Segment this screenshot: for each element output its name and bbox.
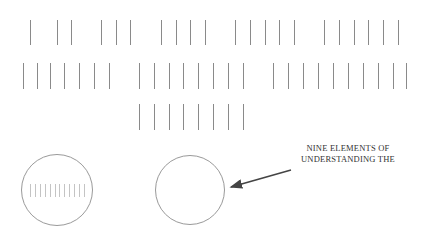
caption-line-1: NINE ELEMENTS OF [292,143,404,154]
caption-label: NINE ELEMENTS OF UNDERSTANDING THE [292,143,404,165]
diagram-canvas: NINE ELEMENTS OF UNDERSTANDING THE [0,0,429,232]
arrow-icon [0,0,429,232]
caption-line-2: UNDERSTANDING THE [292,154,404,165]
